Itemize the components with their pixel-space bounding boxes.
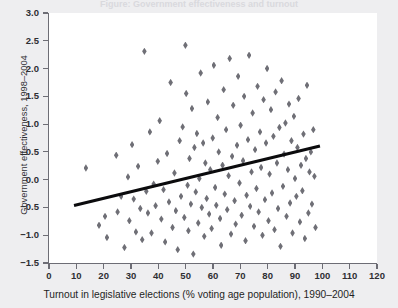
- x-tick-mark: [130, 264, 131, 269]
- y-tick-label: 3.0: [0, 8, 39, 18]
- x-tick-mark: [185, 264, 186, 269]
- x-axis-title: Turnout in legislative elections (% voti…: [0, 289, 398, 300]
- x-tick-mark: [322, 264, 323, 269]
- x-tick-mark: [103, 264, 104, 269]
- y-tick-mark: [43, 124, 48, 125]
- y-tick-label: 2.5: [0, 36, 39, 46]
- x-tick-mark: [48, 264, 49, 269]
- y-tick-label: −0.5: [0, 202, 39, 212]
- y-tick-label: 0.0: [0, 175, 39, 185]
- y-tick-mark: [43, 207, 48, 208]
- x-tick-mark: [240, 264, 241, 269]
- x-tick-mark: [158, 264, 159, 269]
- y-tick-label: 0.5: [0, 147, 39, 157]
- x-tick-mark: [76, 264, 77, 269]
- y-tick-label: 1.5: [0, 91, 39, 101]
- y-tick-mark: [43, 96, 48, 97]
- y-tick-label: −1.0: [0, 230, 39, 240]
- y-tick-label: −1.5: [0, 258, 39, 268]
- x-tick-mark: [294, 264, 295, 269]
- x-tick-label: 120: [357, 271, 397, 281]
- clipped-chart-title: Figure: Government effectiveness and tur…: [0, 0, 398, 9]
- y-tick-mark: [43, 235, 48, 236]
- y-tick-label: 2.0: [0, 64, 39, 74]
- y-axis-line: [48, 13, 49, 264]
- y-tick-mark: [43, 68, 48, 69]
- x-tick-mark: [349, 264, 350, 269]
- x-tick-mark: [212, 264, 213, 269]
- x-tick-mark: [267, 264, 268, 269]
- x-tick-mark: [376, 264, 377, 269]
- y-tick-mark: [43, 12, 48, 13]
- y-tick-mark: [43, 179, 48, 180]
- chart-figure: Figure: Government effectiveness and tur…: [0, 0, 398, 308]
- y-tick-mark: [43, 262, 48, 263]
- y-tick-label: 1.0: [0, 119, 39, 129]
- y-tick-mark: [43, 40, 48, 41]
- y-tick-mark: [43, 151, 48, 152]
